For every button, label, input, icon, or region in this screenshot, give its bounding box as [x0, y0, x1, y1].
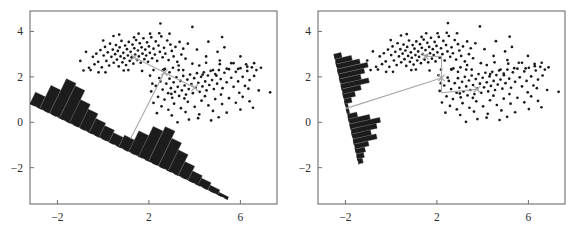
- scatter-point: [186, 78, 189, 81]
- scatter-point: [506, 115, 509, 118]
- scatter-point: [111, 48, 114, 51]
- scatter-point: [125, 64, 128, 67]
- scatter-point: [237, 80, 240, 83]
- scatter-point: [532, 84, 535, 87]
- scatter-point: [106, 51, 109, 54]
- scatter-point: [232, 85, 235, 88]
- scatter-point: [413, 47, 416, 50]
- scatter-point: [521, 61, 524, 64]
- scatter-point: [534, 69, 537, 72]
- scatter-point: [443, 84, 446, 87]
- scatter-point: [210, 119, 213, 122]
- scatter-point: [234, 101, 237, 104]
- scatter-point: [137, 49, 140, 52]
- scatter-point: [477, 73, 480, 76]
- scatter-point: [419, 43, 422, 46]
- scatter-point: [521, 85, 524, 88]
- scatter-point: [253, 75, 256, 78]
- scatter-point: [375, 66, 378, 69]
- scatter-point: [420, 36, 423, 39]
- scatter-point: [470, 74, 473, 77]
- scatter-point: [137, 32, 140, 35]
- scatter-point: [99, 49, 102, 52]
- scatter-point: [118, 33, 121, 36]
- scatter-point: [158, 77, 161, 80]
- scatter-point: [547, 66, 550, 69]
- x-tick-label: −2: [339, 211, 351, 223]
- scatter-point: [409, 61, 412, 64]
- scatter-point: [428, 46, 431, 49]
- scatter-point: [213, 88, 216, 91]
- scatter-point: [393, 59, 396, 62]
- scatter-point: [177, 64, 180, 67]
- scatter-point: [138, 55, 141, 58]
- scatter-point: [170, 50, 173, 53]
- scatter-point: [158, 32, 161, 35]
- scatter-point: [185, 93, 188, 96]
- scatter-point: [163, 98, 166, 101]
- scatter-point: [377, 68, 380, 71]
- scatter-point: [269, 91, 272, 94]
- scatter-point: [120, 40, 123, 43]
- scatter-series-cluster-upper-left: [79, 22, 262, 77]
- scatter-point: [457, 71, 460, 74]
- scatter-point: [533, 63, 536, 66]
- scatter-point: [453, 82, 456, 85]
- scatter-point: [440, 47, 443, 50]
- scatter-point: [458, 92, 461, 95]
- scatter-point: [174, 46, 177, 49]
- scatter-point: [463, 76, 466, 79]
- scatter-point: [445, 95, 448, 98]
- scatter-point: [493, 61, 496, 64]
- scatter-point: [79, 60, 82, 63]
- scatter-point: [401, 52, 404, 55]
- scatter-point: [201, 85, 204, 88]
- scatter-point: [449, 105, 452, 108]
- scatter-point: [202, 71, 205, 74]
- scatter-point: [500, 109, 503, 112]
- scatter-point: [119, 55, 122, 58]
- scatter-point: [431, 48, 434, 51]
- scatter-point: [176, 85, 179, 88]
- scatter-point: [366, 59, 369, 62]
- scatter-point: [406, 46, 409, 49]
- scatter-point: [170, 87, 173, 90]
- scatter-point: [166, 39, 169, 42]
- scatter-point: [182, 69, 185, 72]
- scatter-point: [129, 51, 132, 54]
- scatter-point: [133, 36, 136, 39]
- scatter-point: [152, 69, 155, 72]
- scatter-point: [442, 40, 445, 43]
- scatter-point: [183, 84, 186, 87]
- scatter-point: [193, 105, 196, 108]
- scatter-point: [490, 85, 493, 88]
- scatter-point: [431, 57, 434, 60]
- scatter-point: [473, 93, 476, 96]
- scatter-point: [245, 63, 248, 66]
- left-panel-overlay-lines: [131, 54, 198, 138]
- scatter-point: [480, 91, 483, 94]
- scatter-point: [171, 96, 174, 99]
- scatter-point: [483, 86, 486, 89]
- scatter-point: [133, 47, 136, 50]
- scatter-point: [200, 76, 203, 79]
- scatter-point: [460, 55, 463, 58]
- scatter-point: [146, 41, 149, 44]
- scatter-point: [211, 79, 214, 82]
- scatter-point: [471, 97, 474, 100]
- scatter-point: [491, 71, 494, 74]
- scatter-point: [518, 76, 521, 79]
- scatter-point: [508, 35, 511, 38]
- scatter-point: [390, 54, 393, 57]
- scatter-point: [416, 59, 419, 62]
- scatter-point: [156, 112, 159, 115]
- scatter-point: [420, 46, 423, 49]
- scatter-point: [463, 60, 466, 63]
- scatter-point: [122, 69, 125, 72]
- scatter-point: [97, 71, 100, 74]
- scatter-point: [183, 97, 186, 100]
- scatter-point: [214, 98, 217, 101]
- scatter-point: [404, 49, 407, 52]
- scatter-point: [466, 40, 469, 43]
- axes-box: [318, 11, 565, 204]
